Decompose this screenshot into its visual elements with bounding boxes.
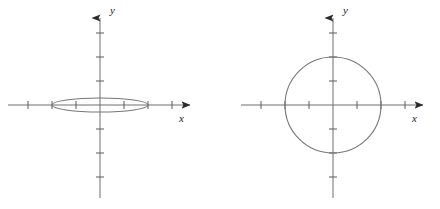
- figure-root: x y: [0, 0, 440, 209]
- right-panel: x y: [241, 4, 423, 198]
- x-axis-label: x: [411, 112, 417, 124]
- left-panel: x y: [8, 4, 190, 198]
- left-panel-axes: [8, 18, 190, 198]
- two-panel-conics-figure: x y: [0, 0, 440, 209]
- right-panel-axes: [241, 18, 423, 198]
- y-axis-label: y: [109, 4, 115, 16]
- x-axis-label: x: [178, 112, 184, 124]
- y-axis-label: y: [342, 4, 348, 16]
